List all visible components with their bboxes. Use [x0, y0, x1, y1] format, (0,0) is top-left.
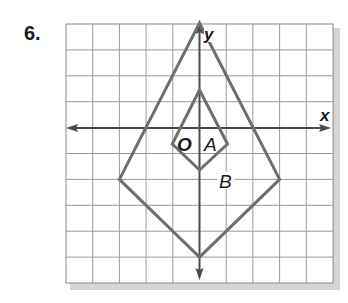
figure-a-label: A	[203, 134, 217, 155]
origin-label: O	[177, 134, 192, 155]
figure-b-label: B	[219, 171, 232, 192]
coordinate-graph: B A O y x	[0, 0, 348, 303]
y-axis-label: y	[203, 25, 215, 44]
x-axis-label: x	[319, 106, 331, 125]
